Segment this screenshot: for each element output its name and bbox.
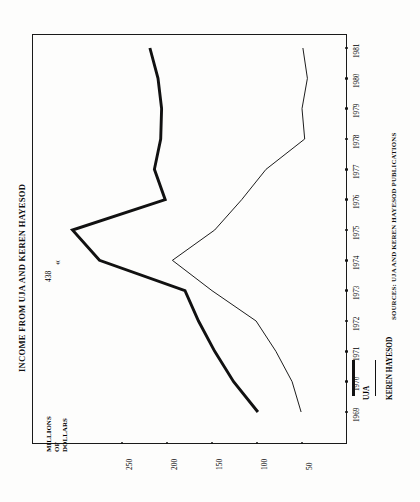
series-plot — [32, 34, 347, 444]
year-tick-label-1976: 1976 — [353, 195, 361, 209]
series-line-uja — [73, 48, 258, 412]
value-axis-caption-line-2: DOLLARS — [61, 416, 69, 452]
value-tick-label-250: 250 — [125, 459, 134, 470]
sources-note: SOURCES: UJA AND KEREN HAYESOD PUBLICATI… — [390, 133, 397, 320]
year-tick-label-1978: 1978 — [353, 134, 361, 148]
year-tick-label-1972: 1972 — [353, 316, 361, 330]
year-tick-label-1980: 1980 — [353, 73, 361, 87]
year-tick-label-1977: 1977 — [353, 164, 361, 178]
legend-label-uja: UJA — [362, 386, 371, 400]
year-tick-1974 — [345, 259, 348, 262]
series-line-keren-hayesod — [172, 48, 307, 412]
value-tick-label-200: 200 — [170, 459, 179, 470]
year-tick-1973 — [345, 289, 348, 292]
year-tick-1978 — [345, 138, 348, 141]
year-tick-1979 — [345, 107, 348, 110]
year-tick-label-1973: 1973 — [353, 286, 361, 300]
value-tick-label-50: 50 — [305, 463, 314, 470]
year-tick-label-1969: 1969 — [353, 407, 361, 421]
value-tick-label-150: 150 — [215, 459, 224, 470]
year-tick-1980 — [345, 77, 348, 80]
value-axis-caption: MILLIONSOFDOLLARS — [45, 416, 70, 452]
peak-annotation-arrow-icon: « — [52, 260, 62, 265]
legend-label-keren-hayesod: KEREN HAYESOD — [385, 337, 394, 400]
year-tick-1971 — [345, 350, 348, 353]
year-tick-label-1979: 1979 — [353, 104, 361, 118]
value-tick-label-100: 100 — [260, 459, 269, 470]
year-tick-label-1971: 1971 — [353, 346, 361, 360]
legend-swatch-thin — [375, 360, 376, 396]
year-tick-label-1974: 1974 — [353, 255, 361, 269]
year-tick-1975 — [345, 229, 348, 232]
year-tick-1972 — [345, 320, 348, 323]
year-tick-1969 — [345, 411, 348, 414]
chart-page: INCOME FROM UJA AND KEREN HAYESOD SOURCE… — [0, 0, 420, 502]
year-tick-label-1975: 1975 — [353, 225, 361, 239]
page-title: INCOME FROM UJA AND KEREN HAYESOD — [17, 184, 27, 372]
year-tick-1970 — [345, 380, 348, 383]
legend-swatch-thick — [352, 360, 355, 396]
plot-area: 25020015010050 1969197019711972197319741… — [32, 34, 347, 444]
value-axis-caption-line-1: OF — [53, 416, 61, 452]
year-tick-1981 — [345, 47, 348, 50]
value-axis-caption-line-0: MILLIONS — [45, 416, 53, 452]
year-tick-label-1981: 1981 — [353, 43, 361, 57]
peak-annotation-label: 438 — [44, 271, 53, 282]
year-tick-1976 — [345, 198, 348, 201]
year-tick-1977 — [345, 168, 348, 171]
